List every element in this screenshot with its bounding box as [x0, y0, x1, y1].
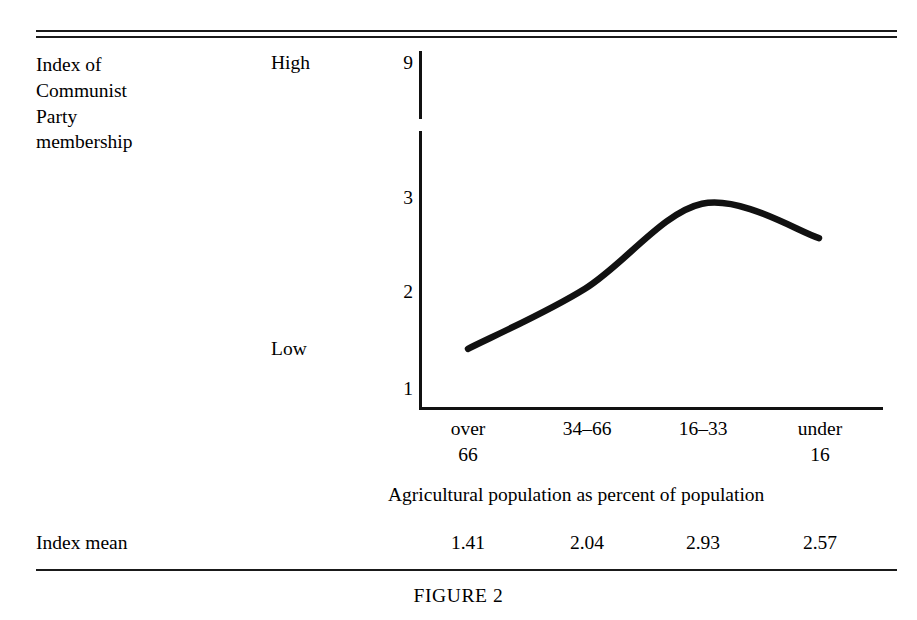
index-mean-values: 1.41 2.04 2.93 2.57: [419, 533, 883, 557]
x-category-0: over 66: [408, 416, 528, 467]
x-category-3: under 16: [760, 416, 880, 467]
index-mean-value-3: 2.57: [760, 533, 880, 553]
x-category-0-line2: 66: [408, 442, 528, 468]
x-category-0-line1: over: [408, 416, 528, 442]
figure-caption: FIGURE 2: [0, 586, 917, 606]
x-category-3-line2: 16: [760, 442, 880, 468]
figure-container: Index of Communist Party membership High…: [0, 0, 917, 620]
x-axis-title: Agricultural population as percent of po…: [388, 485, 764, 505]
index-mean-value-0: 1.41: [408, 533, 528, 553]
x-category-1-line1: 34–66: [527, 416, 647, 442]
index-mean-value-1: 2.04: [527, 533, 647, 553]
index-mean-row-label: Index mean: [36, 533, 128, 553]
x-category-2-line1: 16–33: [643, 416, 763, 442]
x-category-2: 16–33: [643, 416, 763, 442]
data-line-svg: [0, 0, 917, 620]
x-category-3-line1: under: [760, 416, 880, 442]
plot-area: 9 3 2 1: [0, 0, 917, 620]
index-mean-value-2: 2.93: [643, 533, 763, 553]
x-category-1: 34–66: [527, 416, 647, 442]
x-axis-category-labels: over 66 34–66 16–33 under 16: [419, 416, 883, 474]
bottom-rule: [36, 569, 897, 571]
series-line-path: [468, 202, 819, 348]
